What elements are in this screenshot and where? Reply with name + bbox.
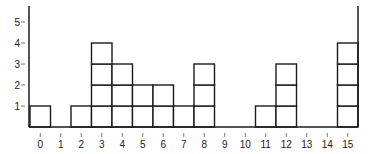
- bar-unit-8-3: [194, 64, 215, 85]
- bar-unit-7-1: [174, 106, 195, 127]
- x-tick-label: 3: [99, 139, 105, 150]
- x-tick-label: 0: [37, 139, 43, 150]
- bar-unit-4-3: [112, 64, 133, 85]
- y-tick-label: 2: [14, 80, 20, 91]
- x-axis-ticks: 0123456789101112131415: [37, 133, 353, 150]
- bar-unit-5-1: [133, 106, 154, 127]
- bar-unit-2-1: [71, 106, 92, 127]
- y-tick-label: 4: [14, 38, 20, 49]
- bar-unit-8-2: [194, 85, 215, 106]
- bar-unit-12-1: [276, 106, 297, 127]
- bar-unit-15-2: [338, 85, 359, 106]
- bar-unit-12-2: [276, 85, 297, 106]
- bar-unit-15-3: [338, 64, 359, 85]
- y-axis-ticks: 12345: [14, 17, 25, 112]
- x-tick-label: 10: [240, 139, 252, 150]
- bars: [30, 43, 358, 127]
- x-tick-label: 4: [119, 139, 125, 150]
- bar-unit-6-1: [153, 106, 174, 127]
- x-tick-label: 11: [261, 139, 272, 150]
- x-tick-label: 8: [201, 139, 207, 150]
- bar-unit-4-2: [112, 85, 133, 106]
- bar-unit-12-3: [276, 64, 297, 85]
- x-tick-label: 1: [58, 139, 64, 150]
- x-tick-label: 2: [78, 139, 84, 150]
- bar-unit-8-1: [194, 106, 215, 127]
- x-tick-label: 15: [342, 139, 354, 150]
- y-tick-label: 5: [14, 17, 20, 28]
- x-tick-label: 7: [181, 139, 187, 150]
- y-tick-label: 1: [14, 101, 20, 112]
- bar-unit-3-2: [92, 85, 113, 106]
- bar-unit-6-2: [153, 85, 174, 106]
- bar-unit-3-3: [92, 64, 113, 85]
- bar-unit-15-4: [338, 43, 359, 64]
- x-tick-label: 9: [222, 139, 228, 150]
- x-tick-label: 13: [301, 139, 313, 150]
- bar-unit-4-1: [112, 106, 133, 127]
- histogram-chart: 12345 0123456789101112131415: [0, 0, 371, 154]
- bar-unit-3-1: [92, 106, 113, 127]
- x-tick-label: 6: [160, 139, 166, 150]
- x-tick-label: 5: [140, 139, 146, 150]
- bar-unit-11-1: [256, 106, 277, 127]
- bar-unit-5-2: [133, 85, 154, 106]
- x-tick-label: 12: [281, 139, 293, 150]
- bar-unit-15-1: [338, 106, 359, 127]
- bar-unit-0-1: [30, 106, 51, 127]
- y-tick-label: 3: [14, 59, 20, 70]
- x-tick-label: 14: [322, 139, 334, 150]
- bar-unit-3-4: [92, 43, 113, 64]
